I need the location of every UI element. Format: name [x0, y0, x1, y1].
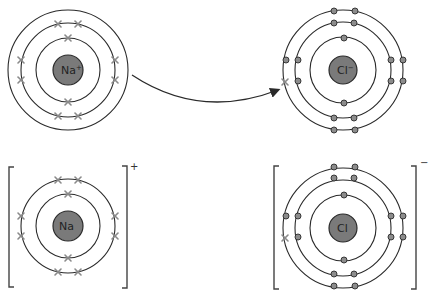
chlorine-atom: Cl−: [282, 8, 406, 133]
sodium-ion-label: Na: [59, 220, 74, 233]
right-bracket: [411, 166, 416, 289]
chloride-ion: − Cl: [274, 157, 428, 289]
right-bracket: [122, 166, 127, 288]
sodium-atom: Na+: [8, 10, 128, 130]
chloride-ion-charge: −: [420, 157, 428, 168]
chloride-ion-label: Cl: [337, 222, 348, 235]
left-bracket: [9, 167, 14, 287]
left-bracket: [274, 166, 279, 289]
sodium-ion: + Na: [9, 161, 138, 288]
sodium-ion-charge: +: [130, 161, 138, 172]
electron-transfer-arrow: [132, 75, 278, 102]
ionic-bond-diagram: Na+ Cl− +: [0, 0, 432, 295]
